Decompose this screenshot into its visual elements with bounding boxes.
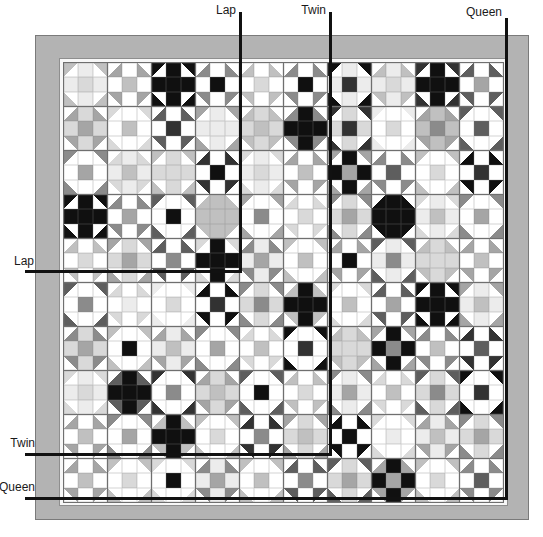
block-corner-triangle	[240, 459, 254, 473]
block-edge-square	[181, 121, 195, 135]
block-edge-square	[416, 165, 430, 179]
block-corner-triangle	[152, 459, 166, 473]
block-edge-square	[298, 63, 312, 77]
block-corner-triangle	[240, 63, 254, 77]
block-corner-triangle	[401, 371, 415, 385]
block-center-square	[298, 429, 312, 443]
quilt-block	[108, 327, 152, 371]
block-edge-square	[489, 297, 503, 311]
block-corner-triangle	[372, 356, 386, 370]
block-center-square	[166, 165, 180, 179]
block-corner-triangle	[196, 180, 210, 194]
block-corner-triangle	[152, 224, 166, 238]
block-corner-triangle	[284, 459, 298, 473]
block-corner-triangle	[416, 312, 430, 326]
block-corner-triangle	[460, 195, 474, 209]
block-corner-triangle	[137, 151, 151, 165]
block-edge-square	[474, 107, 488, 121]
block-edge-square	[78, 92, 92, 106]
block-edge-square	[489, 473, 503, 487]
block-center-square	[342, 77, 356, 91]
block-edge-square	[93, 341, 107, 355]
block-edge-square	[386, 444, 400, 458]
block-edge-square	[489, 209, 503, 223]
block-edge-square	[269, 385, 283, 399]
block-corner-triangle	[284, 151, 298, 165]
block-edge-square	[78, 356, 92, 370]
quilt-block	[108, 283, 152, 327]
block-corner-triangle	[196, 239, 210, 253]
quilt-block	[196, 371, 240, 415]
block-center-square	[386, 121, 400, 135]
block-corner-triangle	[196, 400, 210, 414]
quilt-block	[152, 107, 196, 151]
block-corner-triangle	[181, 283, 195, 297]
block-center-square	[254, 209, 268, 223]
block-corner-triangle	[64, 283, 78, 297]
block-edge-square	[254, 180, 268, 194]
block-edge-square	[313, 429, 327, 443]
block-corner-triangle	[460, 371, 474, 385]
block-edge-square	[430, 224, 444, 238]
block-corner-triangle	[240, 371, 254, 385]
block-edge-square	[430, 151, 444, 165]
block-corner-triangle	[108, 371, 122, 385]
block-edge-square	[240, 121, 254, 135]
block-edge-square	[225, 473, 239, 487]
block-corner-triangle	[137, 195, 151, 209]
block-corner-triangle	[152, 283, 166, 297]
block-center-square	[430, 473, 444, 487]
block-edge-square	[460, 297, 474, 311]
block-corner-triangle	[489, 371, 503, 385]
block-edge-square	[313, 473, 327, 487]
block-corner-triangle	[93, 107, 107, 121]
block-corner-triangle	[489, 312, 503, 326]
block-edge-square	[445, 385, 459, 399]
block-center-square	[298, 165, 312, 179]
block-corner-triangle	[313, 180, 327, 194]
block-edge-square	[430, 283, 444, 297]
block-center-square	[210, 429, 224, 443]
block-corner-triangle	[269, 268, 283, 282]
block-edge-square	[108, 121, 122, 135]
block-corner-triangle	[181, 371, 195, 385]
block-corner-triangle	[181, 356, 195, 370]
block-corner-triangle	[269, 239, 283, 253]
block-corner-triangle	[181, 151, 195, 165]
block-edge-square	[166, 151, 180, 165]
block-edge-square	[313, 77, 327, 91]
block-edge-square	[313, 165, 327, 179]
block-edge-square	[401, 385, 415, 399]
block-edge-square	[474, 371, 488, 385]
block-edge-square	[372, 121, 386, 135]
block-edge-square	[122, 356, 136, 370]
block-center-square	[210, 77, 224, 91]
block-edge-square	[93, 165, 107, 179]
block-corner-triangle	[240, 268, 254, 282]
block-edge-square	[210, 107, 224, 121]
block-corner-triangle	[225, 415, 239, 429]
quilt-block	[64, 371, 108, 415]
quilt-block	[416, 195, 460, 239]
block-center-square	[122, 341, 136, 355]
block-corner-triangle	[240, 151, 254, 165]
quilt-block	[372, 371, 416, 415]
block-edge-square	[460, 385, 474, 399]
block-edge-square	[137, 429, 151, 443]
block-corner-triangle	[460, 92, 474, 106]
block-edge-square	[269, 473, 283, 487]
block-edge-square	[386, 459, 400, 473]
block-corner-triangle	[401, 444, 415, 458]
block-edge-square	[372, 253, 386, 267]
block-edge-square	[166, 283, 180, 297]
block-edge-square	[210, 180, 224, 194]
block-edge-square	[122, 151, 136, 165]
block-edge-square	[416, 77, 430, 91]
block-edge-square	[137, 209, 151, 223]
block-edge-square	[342, 327, 356, 341]
block-edge-square	[386, 371, 400, 385]
block-corner-triangle	[357, 63, 371, 77]
block-edge-square	[328, 473, 342, 487]
block-corner-triangle	[64, 195, 78, 209]
block-corner-triangle	[460, 327, 474, 341]
